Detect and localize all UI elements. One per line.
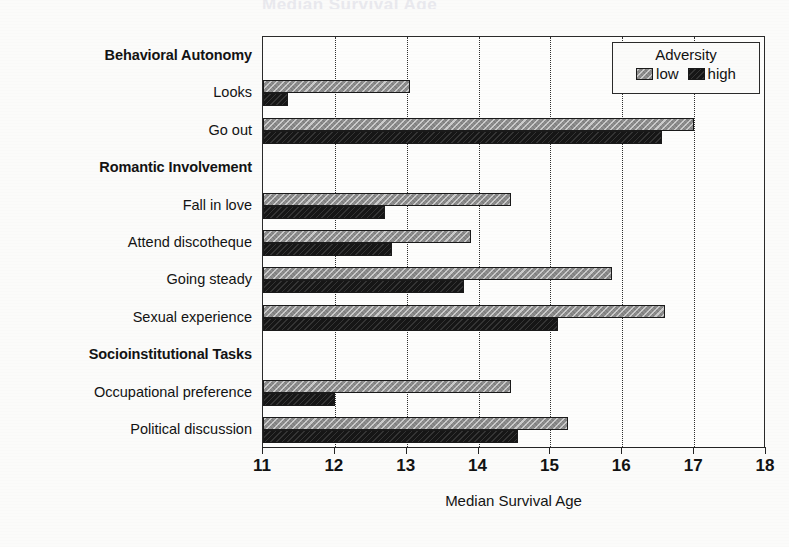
x-tick-14 <box>478 447 479 454</box>
category-label-column: Behavioral AutonomyLooksGo outRomantic I… <box>0 36 252 448</box>
bar-high-attend-discotheque <box>263 243 392 256</box>
x-tick-label-16: 16 <box>601 456 641 476</box>
bar-high-sexual-experience <box>263 318 558 331</box>
x-axis-label: Median Survival Age <box>262 492 765 509</box>
x-tick-17 <box>693 447 694 454</box>
x-tick-18 <box>765 447 766 454</box>
x-axis-line <box>262 447 765 448</box>
category-label: Looks <box>0 85 252 99</box>
category-label: Go out <box>0 123 252 137</box>
legend-item-high: high <box>688 66 736 82</box>
x-tick-label-12: 12 <box>314 456 354 476</box>
x-tick-16 <box>621 447 622 454</box>
bar-low-going-steady <box>263 267 612 280</box>
x-tick-label-13: 13 <box>386 456 426 476</box>
x-tick-15 <box>549 447 550 454</box>
gridline-15 <box>550 37 551 447</box>
legend-swatch-high <box>688 68 705 80</box>
bar-high-go-out <box>263 131 662 144</box>
x-tick-label-11: 11 <box>242 456 282 476</box>
category-label: Attend discotheque <box>0 235 252 249</box>
legend-title: Adversity <box>613 46 759 64</box>
bar-high-going-steady <box>263 280 464 293</box>
category-label: Fall in love <box>0 198 252 212</box>
bar-low-attend-discotheque <box>263 230 471 243</box>
bar-low-occupational-preference <box>263 380 511 393</box>
bar-high-fall-in-love <box>263 206 385 219</box>
legend-item-low: low <box>636 66 679 82</box>
chart-figure: Median Survival Age Behavioral AutonomyL… <box>0 0 789 547</box>
category-label: Occupational preference <box>0 385 252 399</box>
bar-high-political-discussion <box>263 430 518 443</box>
plot-area <box>262 36 765 448</box>
x-tick-13 <box>406 447 407 454</box>
chart-title-clipped: Median Survival Age <box>262 0 592 9</box>
bar-high-occupational-preference <box>263 393 335 406</box>
gridline-16 <box>622 37 623 447</box>
bar-low-political-discussion <box>263 417 568 430</box>
legend-swatch-low <box>636 68 653 80</box>
x-tick-label-18: 18 <box>745 456 785 476</box>
bar-low-fall-in-love <box>263 193 511 206</box>
legend: Adversity lowhigh <box>612 42 760 94</box>
x-tick-label-14: 14 <box>458 456 498 476</box>
category-group-label: Socioinstitutional Tasks <box>0 347 252 361</box>
x-tick-11 <box>262 447 263 454</box>
bar-low-sexual-experience <box>263 305 665 318</box>
x-tick-12 <box>334 447 335 454</box>
category-group-label: Behavioral Autonomy <box>0 48 252 62</box>
category-label: Going steady <box>0 272 252 286</box>
legend-items: lowhigh <box>613 66 759 82</box>
bar-low-looks <box>263 80 410 93</box>
category-label: Political discussion <box>0 422 252 436</box>
bar-low-go-out <box>263 118 694 131</box>
legend-label-low: low <box>656 66 679 82</box>
legend-label-high: high <box>708 66 736 82</box>
gridline-17 <box>694 37 695 447</box>
category-group-label: Romantic Involvement <box>0 160 252 174</box>
x-tick-label-15: 15 <box>529 456 569 476</box>
bar-high-looks <box>263 93 288 106</box>
x-tick-label-17: 17 <box>673 456 713 476</box>
category-label: Sexual experience <box>0 310 252 324</box>
